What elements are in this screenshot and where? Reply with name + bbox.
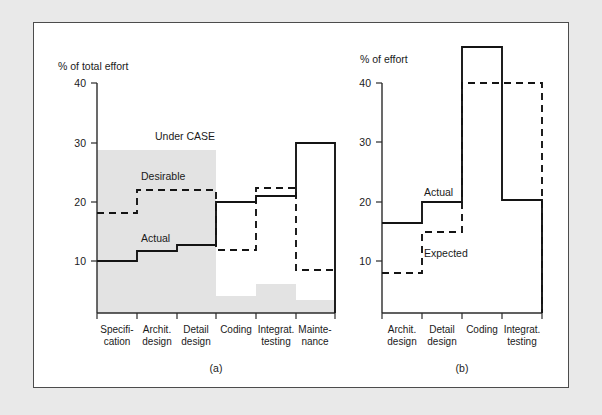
panel-b-cat-1-line1: Detail xyxy=(429,324,455,335)
panel-b-cat-1-line2: design xyxy=(427,336,456,347)
panel-b-ytick-label-40: 40 xyxy=(359,77,371,89)
panel-b-category-labels: Archit. design Detail design Coding Inte… xyxy=(387,324,540,347)
panel-a-cat-3-line1: Coding xyxy=(220,324,252,335)
panel-b-ytick-label-30: 30 xyxy=(359,136,371,148)
panel-b: 40 30 20 10 % of effort Actual Expected … xyxy=(359,47,542,374)
panel-a-cat-1-line2: design xyxy=(142,336,171,347)
panel-a-category-labels: Specifi- cation Archit. design Detail de… xyxy=(100,324,331,347)
panel-a-cat-5-line1: Mainte- xyxy=(298,324,331,335)
panel-a: 40 30 20 10 % of total effort Under CASE… xyxy=(58,60,335,374)
panel-b-cat-3-line2: testing xyxy=(507,336,536,347)
panel-a-cat-2-line1: Detail xyxy=(183,324,209,335)
panel-b-cat-0-line1: Archit. xyxy=(388,324,416,335)
panel-b-cat-3-line1: Integrat. xyxy=(504,324,541,335)
panel-a-ytick-label-30: 30 xyxy=(74,137,86,149)
panel-b-caption: (b) xyxy=(456,362,469,374)
panel-b-cat-0-line2: design xyxy=(387,336,416,347)
figure-svg: 40 30 20 10 % of total effort Under CASE… xyxy=(0,0,602,415)
panel-b-ytick-label-10: 10 xyxy=(359,255,371,267)
panel-b-actual-label: Actual xyxy=(424,186,453,198)
panel-a-cat-4-line1: Integrat. xyxy=(258,324,295,335)
panel-a-cat-4-line2: testing xyxy=(261,336,290,347)
panel-a-desirable-label: Desirable xyxy=(141,170,186,182)
panel-a-cat-0-line1: Specifi- xyxy=(100,324,133,335)
panel-a-cat-2-line2: design xyxy=(181,336,210,347)
panel-a-cat-5-line2: nance xyxy=(301,336,329,347)
panel-a-under-case-label: Under CASE xyxy=(155,130,215,142)
panel-b-axis-title: % of effort xyxy=(360,53,408,65)
panel-a-cat-0-line2: cation xyxy=(104,336,131,347)
panel-a-ytick-label-10: 10 xyxy=(74,255,86,267)
panel-a-axis-title: % of total effort xyxy=(58,60,129,72)
figure-page: 40 30 20 10 % of total effort Under CASE… xyxy=(0,0,602,415)
panel-a-caption: (a) xyxy=(210,362,223,374)
panel-b-ytick-label-20: 20 xyxy=(359,196,371,208)
panel-a-ytick-label-40: 40 xyxy=(74,77,86,89)
panel-a-cat-1-line1: Archit. xyxy=(143,324,171,335)
panel-a-ytick-label-20: 20 xyxy=(74,196,86,208)
panel-b-expected-label: Expected xyxy=(424,247,468,259)
panel-b-cat-2-line1: Coding xyxy=(466,324,498,335)
panel-a-actual-label: Actual xyxy=(141,232,170,244)
